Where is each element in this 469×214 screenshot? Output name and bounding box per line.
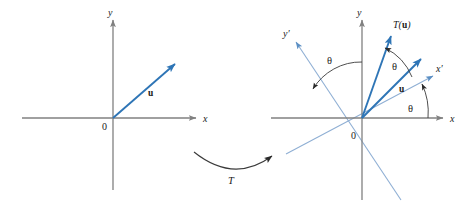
svg-text:T(u): T(u) — [393, 19, 411, 31]
right-vector-Tu-label: T(u) — [393, 19, 411, 31]
right-origin-label: 0 — [351, 130, 356, 141]
right-y-prime-axis — [296, 42, 401, 200]
right-y-prime-axis-label: y′ — [282, 28, 290, 39]
right-y-axis-label: y — [356, 7, 362, 18]
theta-arc-y-to-yprime — [313, 62, 362, 89]
transform-arrow-icon — [194, 152, 272, 169]
right-plane: θ θ θ x y x′ y′ 0 u T(u) — [271, 7, 455, 200]
left-y-axis-label: y — [107, 7, 113, 18]
right-x-prime-axis-label: x′ — [435, 63, 443, 74]
left-x-axis-label: x — [202, 113, 208, 124]
left-plane: x y 0 u — [22, 7, 208, 190]
transform-arrow-group: T — [194, 152, 272, 186]
rotation-transformation-figure: x y 0 u T θ — [0, 0, 469, 214]
left-vector-u-label: u — [148, 88, 154, 98]
Tu-close-paren: ) — [406, 19, 411, 31]
right-x-axis-label: x — [449, 113, 455, 124]
transform-label: T — [228, 175, 235, 186]
theta-label-x-to-xprime: θ — [408, 103, 413, 114]
theta-label-y-to-yprime: θ — [327, 55, 332, 66]
left-vector-u — [113, 64, 175, 118]
right-vector-u-label: u — [399, 84, 405, 94]
left-origin-label: 0 — [102, 121, 107, 132]
figure-canvas: x y 0 u T θ — [0, 0, 469, 214]
right-x-prime-axis — [286, 76, 433, 154]
theta-label-u-to-Tu: θ — [392, 61, 397, 72]
theta-arc-x-to-xprime — [422, 84, 428, 118]
